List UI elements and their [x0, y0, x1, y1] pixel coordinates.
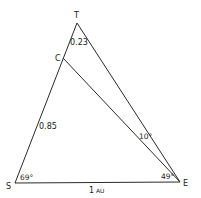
- segment-t-e: [77, 23, 180, 182]
- angle-label-e: 49°: [161, 172, 175, 181]
- angle-label-s: 69°: [20, 173, 34, 182]
- vertex-label-t: T: [73, 11, 79, 20]
- length-label-se-unit: AU: [96, 187, 105, 194]
- angle-label-tec: 10°: [139, 132, 153, 141]
- segment-s-t: [15, 23, 77, 183]
- vertex-label-e: E: [183, 179, 188, 188]
- length-label-se-number: 1: [89, 186, 94, 195]
- segment-s-e: [15, 182, 180, 183]
- diagram-lines: [15, 23, 180, 183]
- segment-c-e: [63, 58, 180, 182]
- vertex-label-c: C: [55, 54, 61, 63]
- vertex-label-s: S: [6, 182, 11, 191]
- triangle-diagram: T C S E 0.23 0.85 1 AU 69° 49° 10°: [0, 0, 201, 198]
- length-label-tc: 0.23: [70, 38, 88, 47]
- length-label-sc: 0.85: [39, 122, 57, 131]
